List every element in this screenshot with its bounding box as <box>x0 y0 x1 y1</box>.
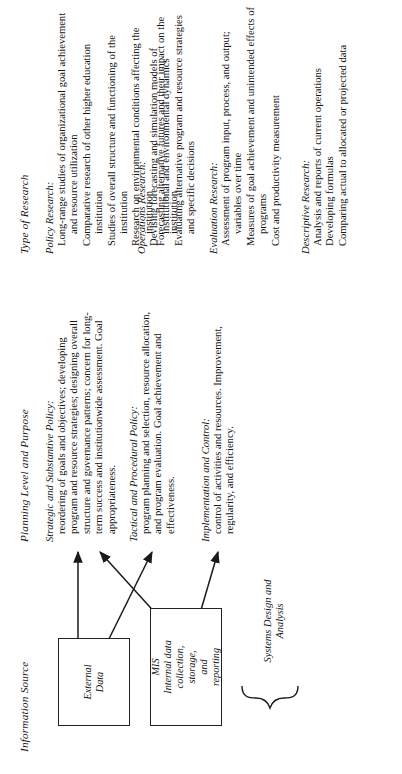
group-implementation-and-control: Implementation and Control: control of a… <box>200 300 237 542</box>
research-item: Comparing actual to allocated or project… <box>337 6 349 246</box>
box-external-data: External Data <box>58 638 130 726</box>
box-mis-line-5: and <box>198 640 210 693</box>
group-descriptive-research: Descriptive Research: Analysis and repor… <box>300 6 349 254</box>
research-item: Cost and productivity measurement <box>270 6 282 246</box>
header-type-of-research: Type of Research <box>18 174 30 254</box>
group-title: Implementation and Control: <box>200 300 211 542</box>
header-information-source: Information Source <box>18 662 30 753</box>
group-tactical-and-procedural-policy: Tactical and Procedural Policy: program … <box>128 300 177 542</box>
column-type-of-research: Type of Research Policy Research: Long-r… <box>0 2 402 254</box>
research-item: Comparative research of other higher edu… <box>81 6 106 246</box>
scanned-diagram-page: Information Source External Data MIS Int… <box>0 0 402 774</box>
box-mis-line-4: storage, <box>186 640 198 693</box>
box-mis-line-1: MIS <box>150 640 162 693</box>
column-planning-level-and-purpose: Planning Level and Purpose Strategic and… <box>0 292 402 542</box>
group-body: program planning and selection, resource… <box>140 300 177 542</box>
research-item: Developing formulas <box>324 6 336 246</box>
group-operations-research: Operations Research: Devising forecastin… <box>136 6 198 254</box>
research-item: Measures of goal achievement and uninten… <box>245 6 270 246</box>
group-evaluation-research: Evaluation Research: Assessment of progr… <box>208 6 282 254</box>
label-systems-design-and-analysis: Systems Design and Analysis <box>262 566 286 676</box>
group-title: Descriptive Research: <box>300 6 311 254</box>
research-item: Long-range studies of organizational goa… <box>56 6 81 246</box>
box-mis-line-2: Internal data <box>162 640 174 693</box>
box-mis: MIS Internal data collection, storage, a… <box>150 608 222 726</box>
group-body: reordering of goals and objectives; deve… <box>56 300 118 542</box>
research-item: Evaluating alternative program and resou… <box>173 6 198 246</box>
group-title: Evaluation Research: <box>208 6 219 254</box>
research-item: Assessment of program input, process, an… <box>220 6 245 246</box>
box-external-data-line-2: Data <box>94 664 106 699</box>
header-planning-level-and-purpose: Planning Level and Purpose <box>18 409 30 542</box>
group-title: Operations Research: <box>136 6 147 254</box>
systems-design-brace-group: Systems Design and Analysis <box>240 564 300 734</box>
box-mis-line-6: reporting <box>210 640 222 693</box>
box-mis-line-3: collection, <box>174 640 186 693</box>
group-strategic-and-substantive-policy: Strategic and Substantive Policy: reorde… <box>44 300 118 542</box>
group-title: Strategic and Substantive Policy: <box>44 300 55 542</box>
group-title: Tactical and Procedural Policy: <box>128 300 139 542</box>
research-item: Devising forecasting and simulation mode… <box>148 6 173 246</box>
column-information-source: Information Source External Data MIS Int… <box>0 570 402 752</box>
group-body: control of activities and resources. Imp… <box>212 300 237 542</box>
research-item: Analysis and reports of current operatio… <box>312 6 324 246</box>
group-title: Policy Research: <box>44 6 55 254</box>
box-external-data-line-1: External <box>82 664 94 699</box>
research-item: Studies of overall structure and functio… <box>106 6 131 246</box>
